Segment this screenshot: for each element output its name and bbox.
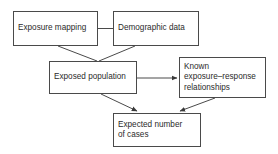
node-known-exposure-response-relationships-label: Known exposure–response relationships <box>184 62 256 93</box>
node-exposed-population-label: Exposed population <box>54 72 126 82</box>
edge-known-exposure-response-to-expected-cases <box>180 98 215 111</box>
node-exposure-mapping-label: Exposure mapping <box>18 23 86 33</box>
edge-demographic-data-to-exposed-population <box>99 46 135 61</box>
node-expected-number-of-cases[interactable]: Expected number of cases <box>113 113 201 147</box>
node-known-exposure-response-relationships[interactable]: Known exposure–response relationships <box>179 57 266 98</box>
edge-exposed-population-to-expected-cases <box>101 94 137 111</box>
node-demographic-data-label: Demographic data <box>118 23 185 33</box>
node-demographic-data[interactable]: Demographic data <box>113 11 199 46</box>
node-expected-number-of-cases-label: Expected number of cases <box>118 120 182 140</box>
node-exposure-mapping[interactable]: Exposure mapping <box>13 11 98 46</box>
node-exposed-population[interactable]: Exposed population <box>49 61 137 94</box>
edge-exposure-mapping-to-exposed-population <box>58 46 97 61</box>
flowchart-diagram: Exposure mapping Demographic data Expose… <box>0 0 278 154</box>
